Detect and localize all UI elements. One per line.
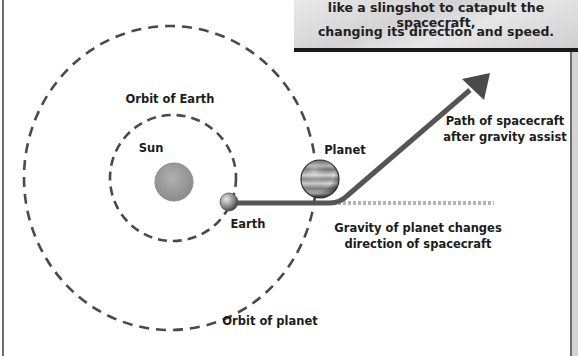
label-path-after-line1: Path of spacecraft <box>446 114 565 128</box>
label-planet: Planet <box>324 143 366 157</box>
label-path-after-line2: after gravity assist <box>443 130 567 144</box>
label-gravity-line1: Gravity of planet changes <box>334 221 502 235</box>
label-orbit-of-earth: Orbit of Earth <box>125 92 214 106</box>
sun-icon <box>155 163 193 201</box>
planet-icon <box>301 160 339 198</box>
label-sun: Sun <box>139 141 164 155</box>
earth-icon <box>220 193 238 211</box>
label-gravity-line2: direction of spacecraft <box>344 237 492 251</box>
gravity-assist-diagram: Orbit of Earth Sun Earth Planet Orbit of… <box>0 0 578 356</box>
label-earth: Earth <box>231 217 266 231</box>
label-orbit-of-planet: Orbit of planet <box>222 314 318 328</box>
